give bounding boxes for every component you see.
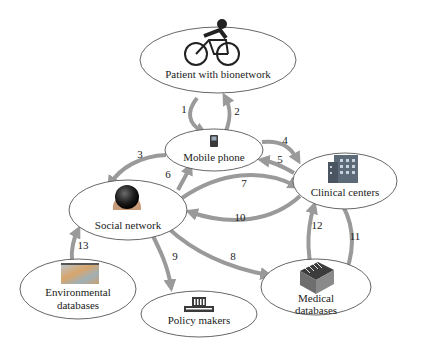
edge-label-6: 6: [165, 168, 171, 180]
edge-label-9: 9: [172, 250, 178, 262]
node-label-env-line1: Environmental: [45, 286, 110, 298]
edge-9-arrow: [150, 230, 171, 287]
edge-label-13: 13: [78, 239, 90, 251]
node-patient: Patient with bionetwork: [140, 20, 296, 93]
edge-6-arrow: [178, 167, 190, 190]
node-env: Environmental databases: [20, 259, 136, 319]
mobile-phone-icon: [210, 135, 218, 147]
node-label-patient: Patient with bionetwork: [165, 68, 271, 80]
node-social: Social network: [69, 180, 187, 240]
node-medical: Medical databases: [261, 259, 371, 316]
node-label-policy: Policy makers: [168, 314, 231, 326]
node-mobile: Mobile phone: [165, 129, 263, 171]
satellite-map-icon: [61, 263, 99, 284]
edge-label-2: 2: [234, 105, 240, 117]
edge-label-10: 10: [235, 211, 247, 223]
node-label-mobile: Mobile phone: [183, 151, 245, 163]
node-label-social: Social network: [95, 219, 162, 231]
edge-8-arrow: [168, 228, 268, 275]
node-label-medical-line2: databases: [295, 304, 337, 316]
edge-label-7: 7: [241, 177, 247, 189]
node-label-clinical: Clinical centers: [311, 186, 380, 198]
edge-2-arrow: [225, 97, 230, 131]
edge-label-8: 8: [230, 250, 236, 262]
node-label-env-line2: databases: [57, 299, 99, 311]
edge-1-arrow: [190, 98, 203, 132]
network-diagram: 1 2 3 4 5 6 7 8 9 10 11 12 13 Patient wi…: [0, 0, 433, 354]
node-policy: Policy makers: [141, 291, 257, 337]
node-clinical: Clinical centers: [293, 153, 397, 209]
edge-label-11: 11: [350, 230, 361, 242]
edge-label-3: 3: [137, 148, 143, 160]
edge-7-arrow: [182, 175, 296, 198]
edge-label-12: 12: [312, 219, 323, 231]
edge-label-1: 1: [181, 103, 187, 115]
edge-label-5: 5: [277, 153, 283, 165]
node-label-medical-line1: Medical: [298, 292, 334, 304]
edge-label-4: 4: [282, 134, 288, 146]
